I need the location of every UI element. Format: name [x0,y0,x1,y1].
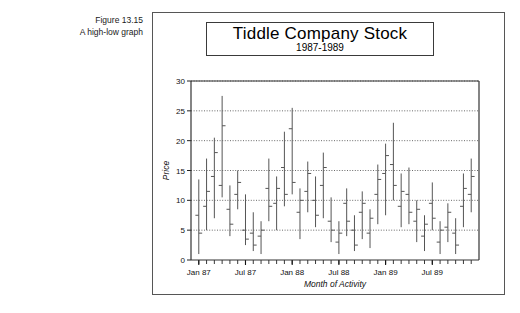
figure-container: Figure 13.15 A high-low graph Tiddle Com… [0,0,520,313]
svg-text:Month of Activity: Month of Activity [304,279,367,289]
svg-text:Jul 87: Jul 87 [235,268,257,277]
high-low-plot: 051015202530Jan 87Jul 87Jan 88Jul 88Jan … [153,13,506,296]
gridlines [191,81,479,230]
svg-text:30: 30 [176,77,185,86]
svg-text:0: 0 [181,256,186,265]
chart-frame: Tiddle Company Stock 1987-1989 051015202… [152,12,505,295]
svg-text:Jan 89: Jan 89 [374,268,399,277]
svg-text:Price: Price [161,161,171,181]
svg-text:25: 25 [176,107,185,116]
svg-text:Jan 87: Jan 87 [187,268,212,277]
axis-ticks [187,81,471,265]
svg-text:5: 5 [181,226,186,235]
figure-caption-text: A high-low graph [10,26,143,38]
svg-text:Jan 88: Jan 88 [280,268,305,277]
svg-text:Jul 88: Jul 88 [328,268,350,277]
svg-text:15: 15 [176,167,185,176]
figure-caption: Figure 13.15 A high-low graph [10,14,143,38]
svg-text:10: 10 [176,196,185,205]
svg-text:Jul 89: Jul 89 [422,268,444,277]
plot-area: 051015202530Jan 87Jul 87Jan 88Jul 88Jan … [153,13,506,296]
figure-caption-number: Figure 13.15 [10,14,143,26]
svg-text:20: 20 [176,137,185,146]
